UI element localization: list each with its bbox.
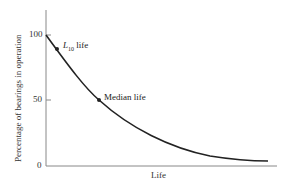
y-tick-label-50: 50 — [33, 94, 42, 104]
survival-chart — [0, 0, 293, 189]
l10-point — [55, 47, 59, 51]
x-axis-label: Life — [151, 170, 166, 180]
y-axis-label: Percentage of bearings in operation — [13, 35, 23, 162]
median-point — [97, 98, 101, 102]
l10-annotation: L10 life — [63, 40, 88, 52]
y-tick-label-0: 0 — [37, 160, 42, 170]
median-annotation: Median life — [104, 92, 146, 102]
survival-curve — [46, 35, 268, 161]
y-tick-label-100: 100 — [29, 29, 43, 39]
l10-text: life — [74, 40, 88, 50]
